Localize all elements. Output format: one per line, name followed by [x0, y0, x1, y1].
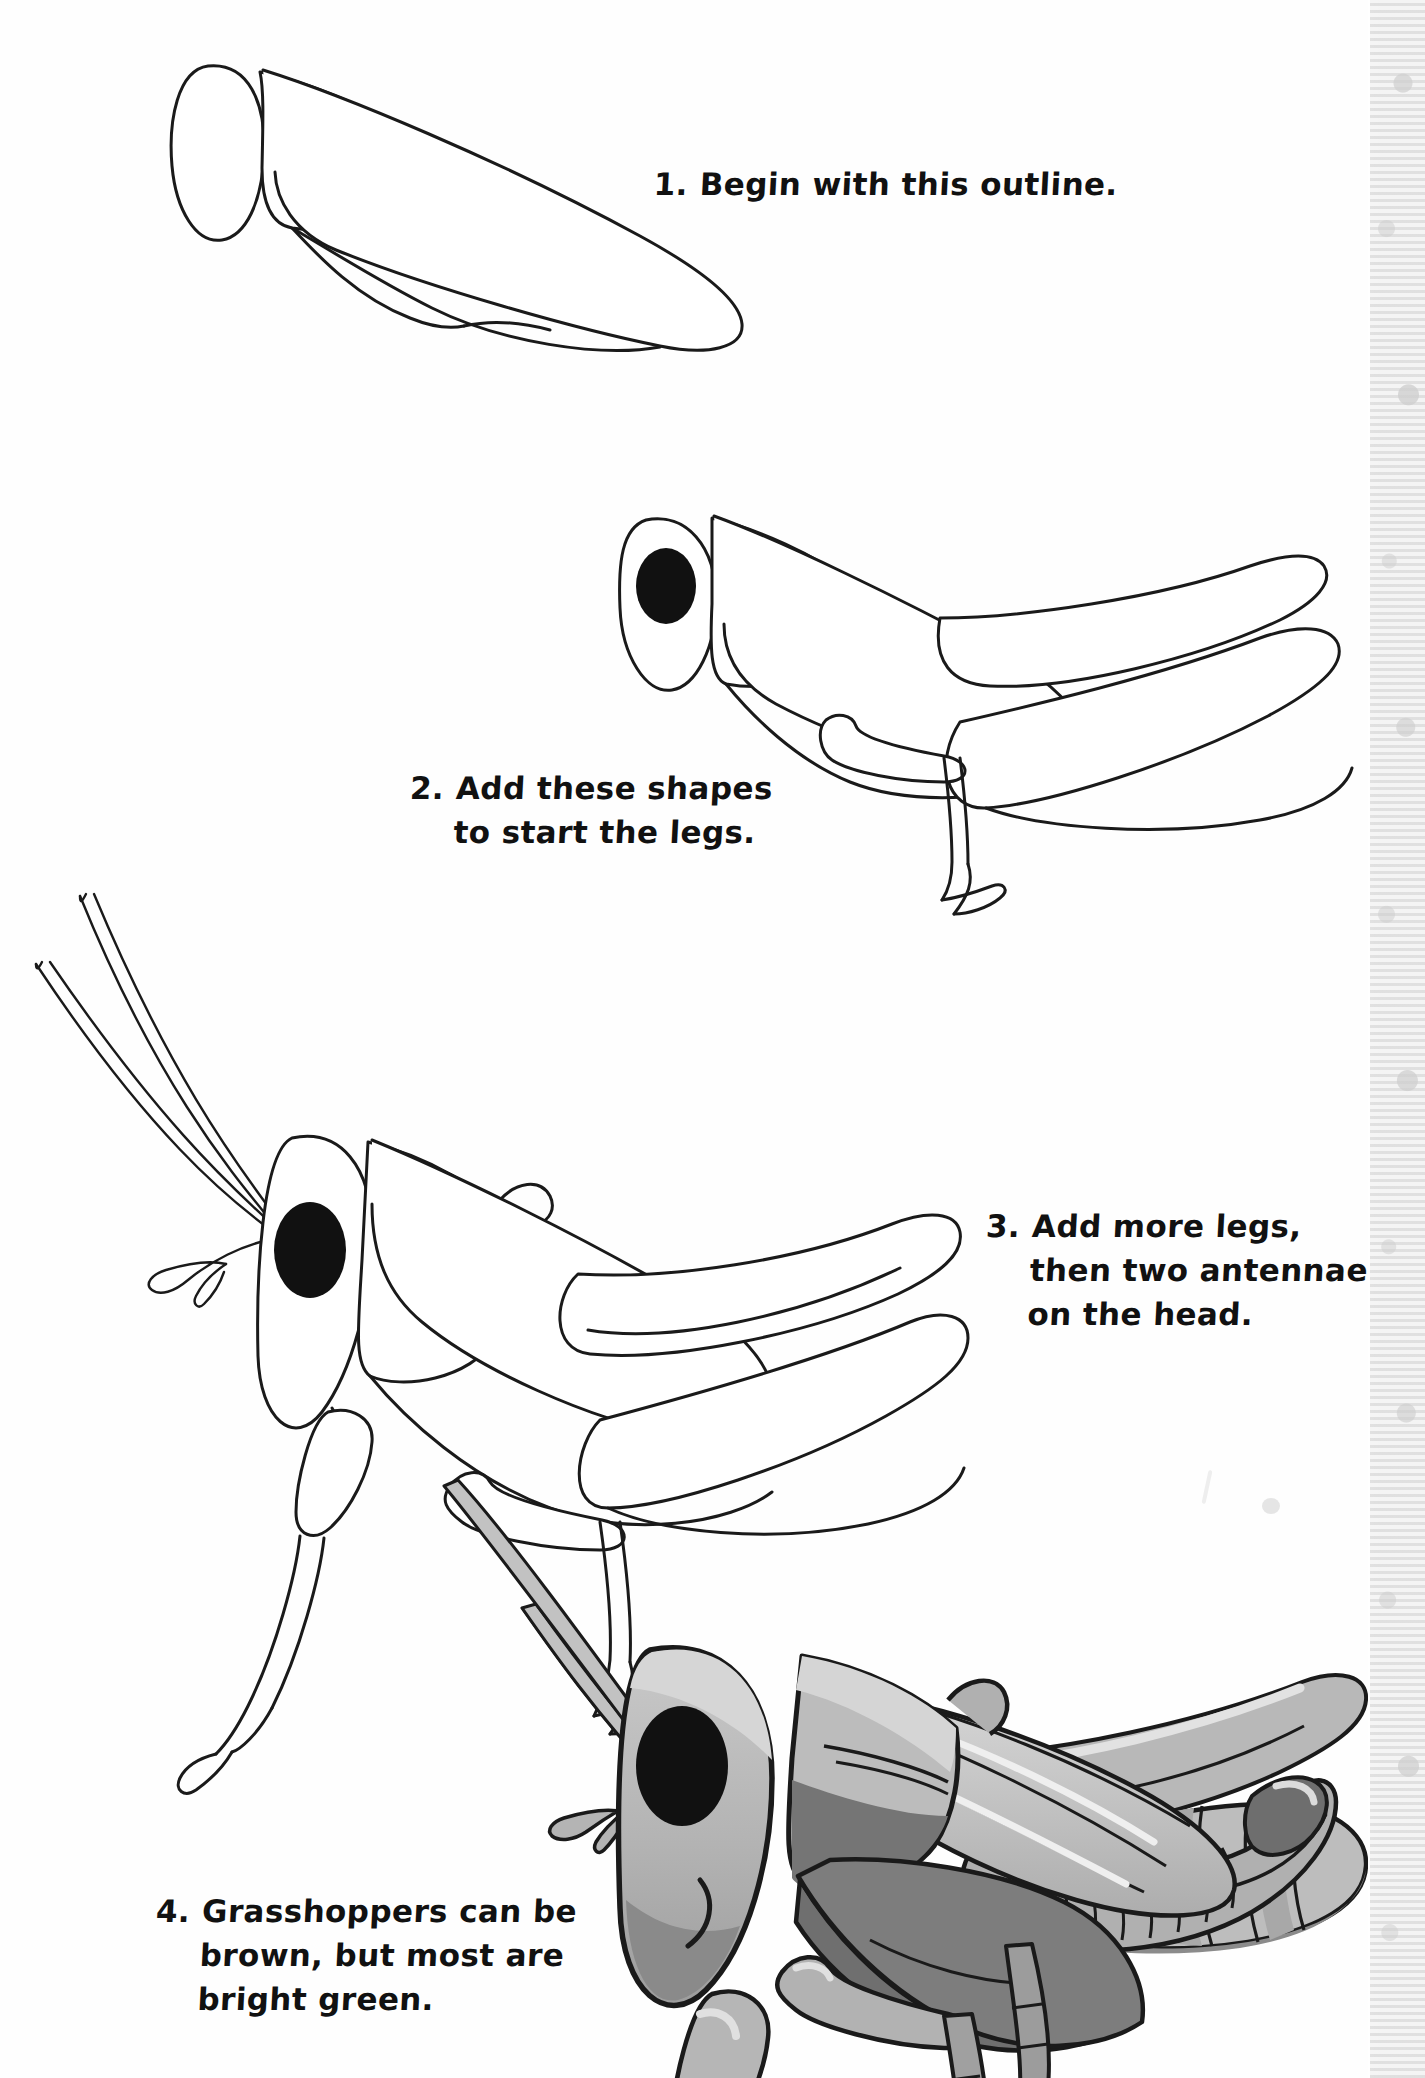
edge-pattern-texture [1370, 0, 1425, 2078]
step-3-number: 3. [985, 1204, 1033, 1248]
step-4-caption: 4.Grasshoppers can be brown, but most ar… [150, 1845, 580, 2021]
figure-step-1 [80, 50, 880, 380]
step-2-text: Add these shapes to start the legs. [453, 766, 774, 854]
scan-speck-mark [1262, 1498, 1280, 1514]
step-4-number: 4. [155, 1889, 203, 1933]
page-canvas: 1.Begin with this outline. 2.Add these s… [0, 0, 1425, 2078]
step-1-caption: 1.Begin with this outline. [653, 118, 1122, 206]
figure-step-3 [10, 860, 970, 1420]
page-edge-pattern-strip [1368, 0, 1425, 2078]
step-2-number: 2. [409, 766, 457, 810]
step-3-caption: 3.Add more legs, then two antennae on th… [980, 1160, 1373, 1336]
step-1-text: Begin with this outline. [699, 162, 1119, 206]
step-4-text: Grasshoppers can be brown, but most are … [196, 1889, 578, 2021]
step-3-text: Add more legs, then two antennae on the … [1026, 1204, 1371, 1336]
step-2-caption: 2.Add these shapes to start the legs. [407, 722, 777, 854]
step-1-number: 1. [653, 162, 701, 206]
show-through-text [799, 1556, 1220, 1633]
